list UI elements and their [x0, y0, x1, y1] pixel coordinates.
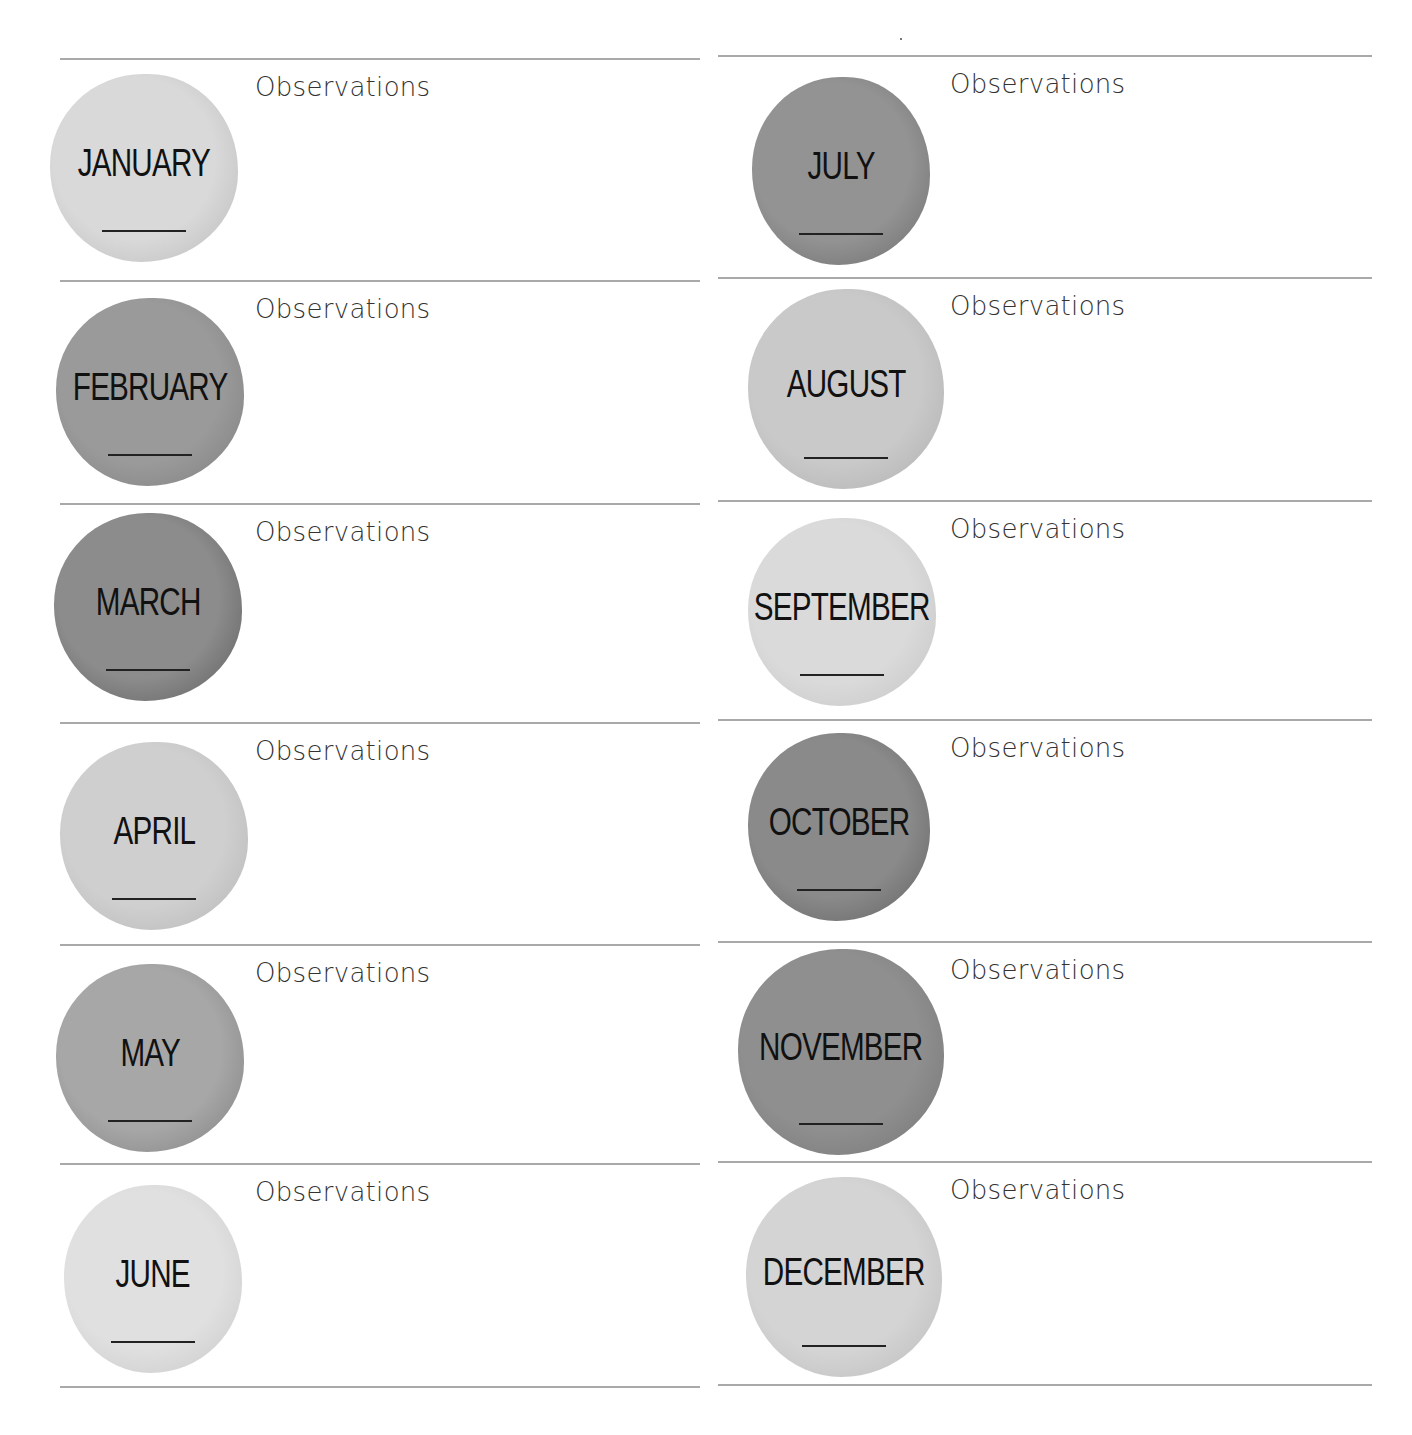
month-label: OCTOBER	[769, 801, 910, 844]
month-label: NOVEMBER	[759, 1026, 922, 1069]
date-blank-line[interactable]	[108, 1120, 192, 1122]
watercolor-circle: FEBRUARY	[56, 298, 244, 486]
observations-label: Observations	[950, 955, 1125, 985]
month-entry-september: SEPTEMBER Observations	[718, 504, 1372, 724]
speck	[900, 38, 902, 40]
month-label: JANUARY	[78, 142, 210, 185]
month-label: MAY	[120, 1032, 180, 1075]
month-entry-july: JULY Observations	[718, 59, 1372, 279]
watercolor-circle: MAY	[56, 964, 244, 1152]
date-blank-line[interactable]	[802, 1345, 886, 1347]
month-label: MARCH	[96, 581, 201, 624]
watercolor-circle: JULY	[752, 77, 930, 265]
month-entry-april: APRIL Observations	[60, 726, 700, 946]
date-blank-line[interactable]	[797, 889, 881, 891]
observations-label: Observations	[255, 72, 430, 102]
watercolor-circle: SEPTEMBER	[748, 518, 936, 706]
month-entry-march: MARCH Observations	[60, 507, 700, 727]
observations-label: Observations	[950, 733, 1125, 763]
observations-label: Observations	[950, 69, 1125, 99]
date-blank-line[interactable]	[108, 454, 192, 456]
divider-line	[718, 55, 1372, 57]
month-label: FEBRUARY	[73, 366, 228, 409]
watercolor-circle: OCTOBER	[748, 733, 930, 921]
observations-label: Observations	[255, 1177, 430, 1207]
observations-label: Observations	[950, 514, 1125, 544]
date-blank-line[interactable]	[804, 457, 888, 459]
observations-label: Observations	[950, 291, 1125, 321]
watercolor-circle: JANUARY	[50, 74, 238, 262]
month-entry-november: NOVEMBER Observations	[718, 945, 1372, 1165]
month-entry-january: JANUARY Observations	[60, 62, 700, 282]
month-entry-august: AUGUST Observations	[718, 281, 1372, 501]
month-entry-may: MAY Observations	[60, 948, 700, 1168]
month-entry-october: OCTOBER Observations	[718, 723, 1372, 943]
watercolor-circle: MARCH	[54, 513, 242, 701]
watercolor-circle: DECEMBER	[746, 1177, 942, 1377]
observations-label: Observations	[255, 294, 430, 324]
month-label: APRIL	[113, 810, 195, 853]
month-label: SEPTEMBER	[754, 586, 930, 629]
month-entry-december: DECEMBER Observations	[718, 1165, 1372, 1385]
date-blank-line[interactable]	[102, 230, 186, 232]
observations-label: Observations	[255, 958, 430, 988]
divider-line	[60, 58, 700, 60]
date-blank-line[interactable]	[111, 1341, 195, 1343]
observations-label: Observations	[255, 736, 430, 766]
date-blank-line[interactable]	[799, 1123, 883, 1125]
observations-label: Observations	[255, 517, 430, 547]
month-label: AUGUST	[787, 363, 906, 406]
date-blank-line[interactable]	[112, 898, 196, 900]
month-entry-february: FEBRUARY Observations	[60, 284, 700, 504]
date-blank-line[interactable]	[106, 669, 190, 671]
month-label: DECEMBER	[763, 1251, 925, 1294]
date-blank-line[interactable]	[800, 674, 884, 676]
watercolor-circle: AUGUST	[748, 289, 944, 489]
watercolor-circle: JUNE	[64, 1185, 242, 1373]
date-blank-line[interactable]	[799, 233, 883, 235]
watercolor-circle: APRIL	[60, 742, 248, 930]
observations-label: Observations	[950, 1175, 1125, 1205]
month-entry-june: JUNE Observations	[60, 1167, 700, 1387]
month-label: JUNE	[116, 1253, 190, 1296]
watercolor-circle: NOVEMBER	[738, 949, 944, 1155]
month-label: JULY	[807, 145, 874, 188]
